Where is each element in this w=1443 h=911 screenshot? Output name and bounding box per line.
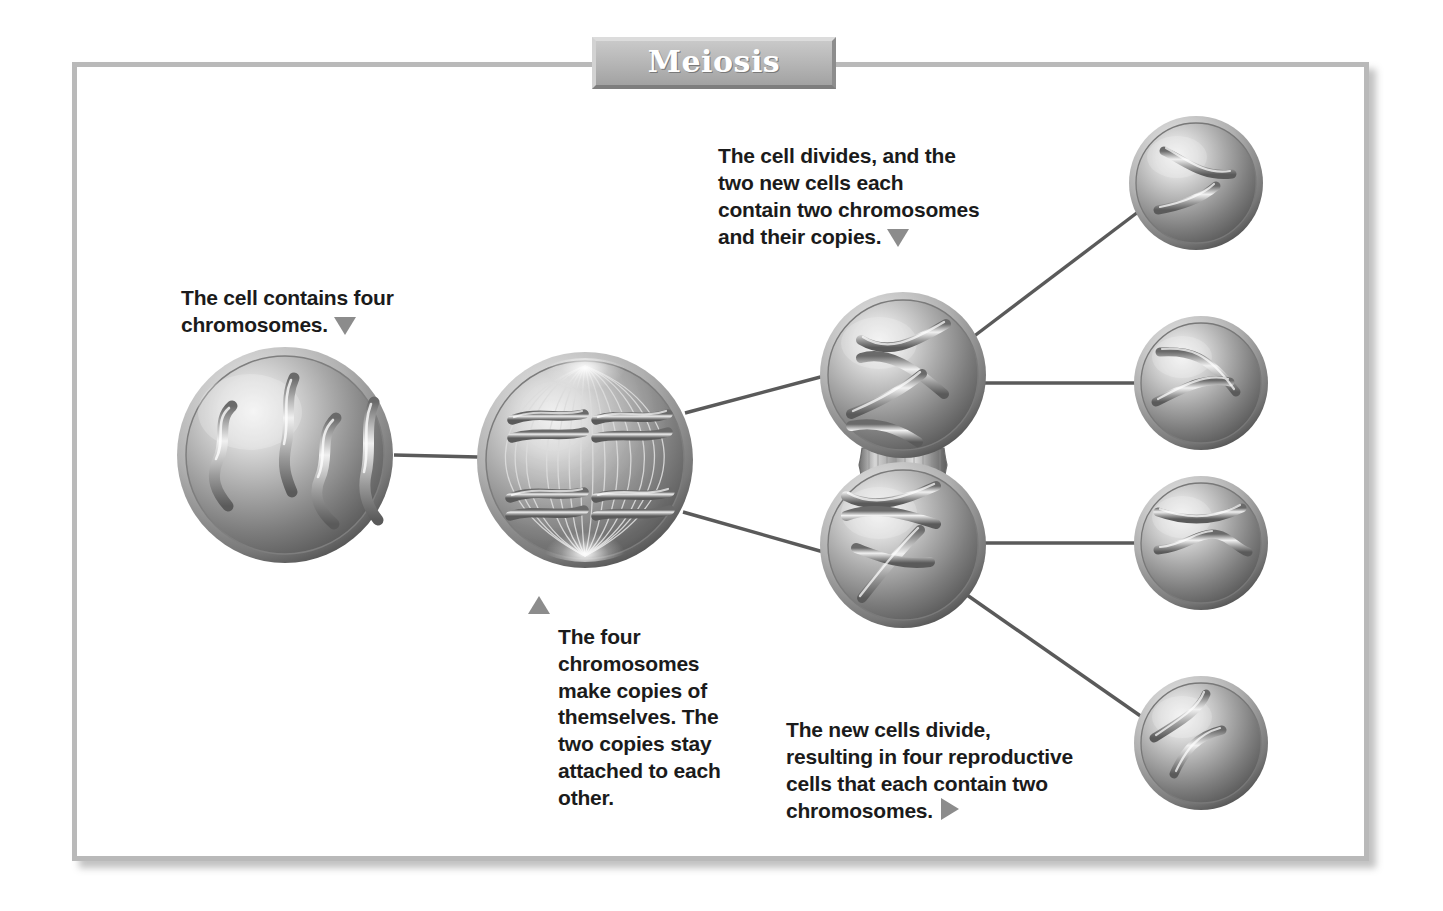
caption-cell-divides-two-new-cells: The cell divides, and the two new cells … [718,116,1048,250]
caption-new-cells-divide-four-reproductive: The new cells divide, resulting in four … [786,690,1126,824]
page-title: Meiosis [648,47,780,79]
meiosis-diagram-page: Meiosis [0,0,1443,911]
caption-text: The new cells divide, resulting in four … [786,718,1073,822]
triangle-down-icon [334,317,356,335]
caption-text: The cell divides, and the two new cells … [718,144,979,248]
caption-cell-contains-four-chromosomes: The cell contains four chromosomes. [181,258,481,339]
triangle-down-icon [887,229,909,247]
caption-text: The cell contains four chromosomes. [181,286,394,336]
triangle-right-icon [941,798,959,820]
caption-text: The four chromosomes make copies of them… [558,624,738,812]
caption-four-chromosomes-make-copies: The four chromosomes make copies of them… [528,592,738,839]
triangle-up-icon [528,596,550,614]
title-banner: Meiosis [592,37,836,89]
